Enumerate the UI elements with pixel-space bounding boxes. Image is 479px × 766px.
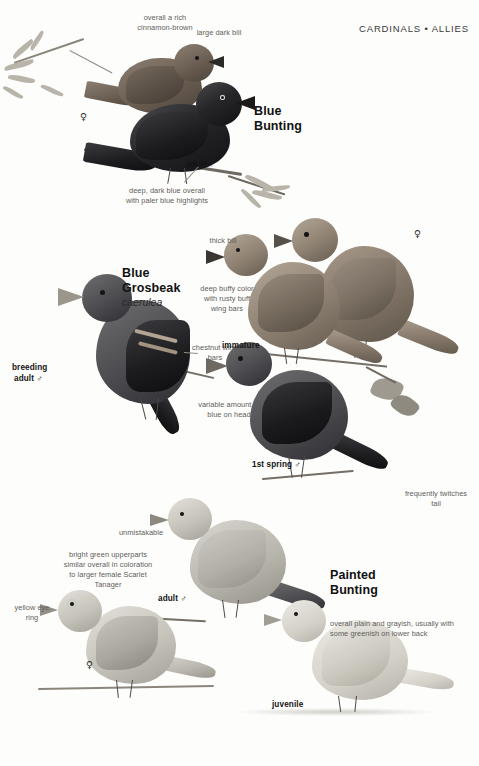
annotation-cinnamon-brown: overall a rich cinnamon-brown — [128, 13, 202, 33]
perch-branch-grosbeak-lower — [262, 470, 354, 480]
annotation-plain-grayish: overall plain and grayish, usually with … — [330, 619, 456, 639]
annotation-deep-dark-blue: deep, dark blue overall with paler blue … — [124, 186, 210, 206]
label-grosbeak-first-spring: 1st spring ♂ — [252, 460, 301, 469]
label-grosbeak-immature: immature — [222, 341, 260, 350]
species-title-blue-bunting: Blue Bunting — [254, 104, 344, 133]
annotation-variable-blue: variable amount of blue on head — [198, 400, 260, 420]
annotation-yellow-eye-ring: yellow eye ring — [10, 603, 54, 623]
ground-shadow-juvenile — [236, 708, 436, 716]
bill-adult-male-bunting — [236, 96, 255, 110]
bill-grosbeak-adult-male — [58, 288, 84, 306]
species-name-line1: Painted — [330, 568, 376, 582]
species-name-line1: Blue — [122, 266, 150, 280]
bill-female-bunting — [208, 56, 224, 68]
annotation-thick-bill: thick bill — [206, 236, 240, 246]
bill-grosbeak-immature — [206, 250, 225, 264]
annotation-deep-buffy: deep buffy color with rusty buff wing ba… — [198, 284, 256, 314]
species-title-painted-bunting: Painted Bunting — [330, 568, 420, 597]
label-blue-bunting-adult-male: adult ♂ — [186, 160, 215, 169]
label-grosbeak-female: ♀ — [414, 228, 421, 239]
label-painted-juvenile: juvenile — [272, 700, 303, 709]
annotation-twitches-tail: frequently twitches tail — [404, 489, 468, 509]
page-header: CARDINALS • ALLIES — [359, 23, 469, 34]
label-grosbeak-breeding-line2: adult ♂ — [14, 374, 43, 383]
label-painted-female: ♀ — [86, 659, 93, 670]
label-painted-adult-male: adult ♂ — [158, 594, 187, 603]
field-guide-page: CARDINALS • ALLIES — [0, 0, 479, 766]
bill-painted-juvenile — [264, 614, 282, 626]
label-blue-bunting-female: ♀ — [80, 111, 87, 122]
species-name-line2: Grosbeak — [122, 281, 180, 295]
annotation-unmistakable: unmistakable — [108, 528, 174, 538]
bill-grosbeak-female — [274, 234, 293, 248]
eye-ring — [67, 599, 77, 609]
bill-painted-male — [150, 514, 169, 526]
annotation-bright-green: bright green upperparts similar overall … — [62, 550, 154, 590]
species-name-line1: Blue — [254, 104, 282, 118]
perch-branch-painted-female — [38, 685, 214, 690]
species-name-line2: Bunting — [330, 583, 378, 597]
annotation-large-dark-bill: large dark bill — [196, 28, 242, 38]
species-name-line2: Bunting — [254, 119, 302, 133]
label-grosbeak-breeding-line1: breeding — [12, 363, 47, 372]
species-scientific-name: caerulea — [122, 296, 162, 308]
leader-line-cinnamon — [70, 50, 113, 73]
